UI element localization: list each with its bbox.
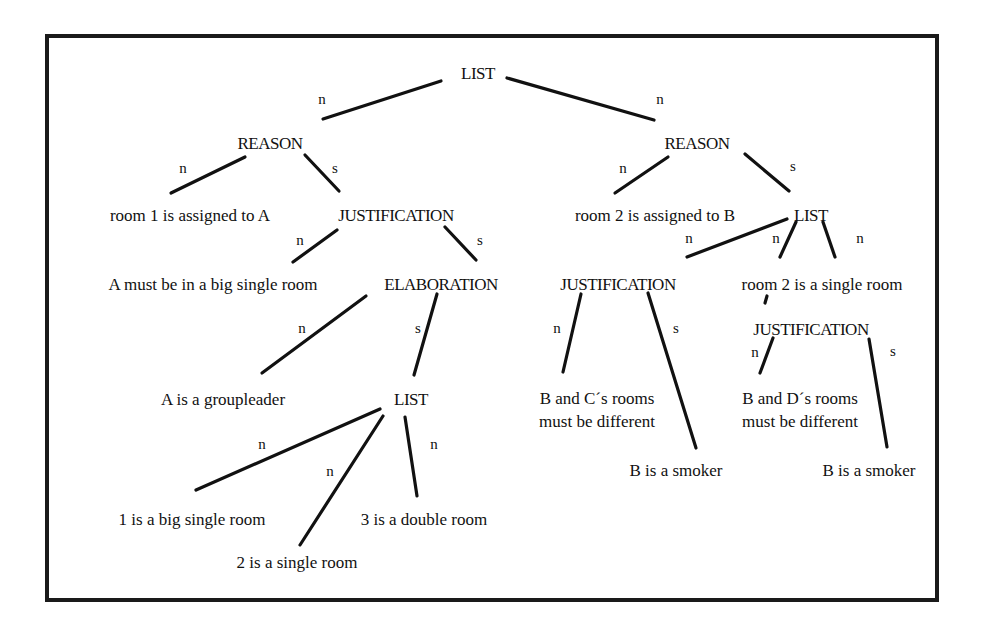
edge-list_root-to-reason_2 [507,78,654,120]
relation-node-reason-2: REASON [664,134,729,153]
relation-node-reason-1: REASON [237,134,302,153]
leaf-node-room2-assigned: room 2 is assigned to B [575,206,735,225]
edge-label-nucleus: n [685,230,693,246]
leaf-node-room2-single: room 2 is a single room [741,275,902,294]
edge-list_3-to-room1_big [196,409,380,490]
leaf-node-b-smoker-2: B is a smoker [822,461,915,480]
edge-justification_3-to-b_smoker_2 [869,339,887,447]
edge-justification_2-to-b_c_rooms_1 [563,294,581,372]
leaf-node-room3-double: 3 is a double room [361,510,488,529]
edge-room2_single-to-justification_3 [765,296,767,303]
relation-node-justification-3: JUSTIFICATION [753,320,869,339]
edge-label-nucleus: n [430,436,438,452]
rst-tree-diagram: nnnsnsnsnnnnsnsnsnnn LISTREASONREASONroo… [0,0,984,629]
edge-label-nucleus: n [619,160,627,176]
edge-reason_2-to-list_2 [745,154,789,191]
edge-label-nucleus: n [326,463,334,479]
edge-label-satellite: s [790,158,796,174]
leaf-node-a-groupleader: A is a groupleader [161,390,285,409]
relation-node-justification-1: JUSTIFICATION [338,206,454,225]
edge-list_2-to-room2_single [823,222,835,257]
leaf-node-room1-big: 1 is a big single room [119,510,266,529]
edge-label-nucleus: n [318,91,326,107]
edge-label-satellite: s [332,160,338,176]
edge-label-satellite: s [673,320,679,336]
edge-justification_3-to-b_d_rooms_1 [760,338,773,373]
leaf-node-b-c-rooms-2: must be different [539,412,655,431]
relation-node-list-3: LIST [394,390,429,409]
edge-justification_2-to-b_smoker_1 [648,293,696,448]
edge-label-nucleus: n [553,320,561,336]
leaf-node-b-d-rooms-1: B and D´s rooms [742,389,858,408]
nodes-layer: LISTREASONREASONroom 1 is assigned to AJ… [108,64,915,572]
edge-list_2-to-room2_single [780,222,796,257]
leaf-node-b-d-rooms-2: must be different [742,412,858,431]
relation-node-list-root: LIST [461,64,496,83]
edge-label-nucleus: n [751,344,759,360]
edge-justification_1-to-elaboration [445,227,476,260]
edge-label-nucleus: n [656,91,664,107]
edge-label-nucleus: n [179,160,187,176]
edge-label-satellite: s [477,232,483,248]
leaf-node-room1-assigned: room 1 is assigned to A [110,206,271,225]
edge-label-nucleus: n [296,232,304,248]
edge-label-nucleus: n [856,230,864,246]
relation-node-elaboration: ELABORATION [384,275,498,294]
edge-list_root-to-reason_1 [323,81,441,119]
leaf-node-a-big-single: A must be in a big single room [108,275,317,294]
leaf-node-b-smoker-1: B is a smoker [629,461,722,480]
edge-label-satellite: s [890,343,896,359]
leaf-node-b-c-rooms-1: B and C´s rooms [540,389,655,408]
edge-list_3-to-room3_double [405,417,417,496]
edge-label-nucleus: n [258,436,266,452]
edge-label-satellite: s [415,320,421,336]
relation-node-justification-2: JUSTIFICATION [560,275,676,294]
edge-label-nucleus: n [298,320,306,336]
edge-label-nucleus: n [772,230,780,246]
relation-node-list-2: LIST [794,206,829,225]
edge-elaboration-to-a_groupleader [262,296,366,373]
leaf-node-room2-single-b: 2 is a single room [237,553,358,572]
